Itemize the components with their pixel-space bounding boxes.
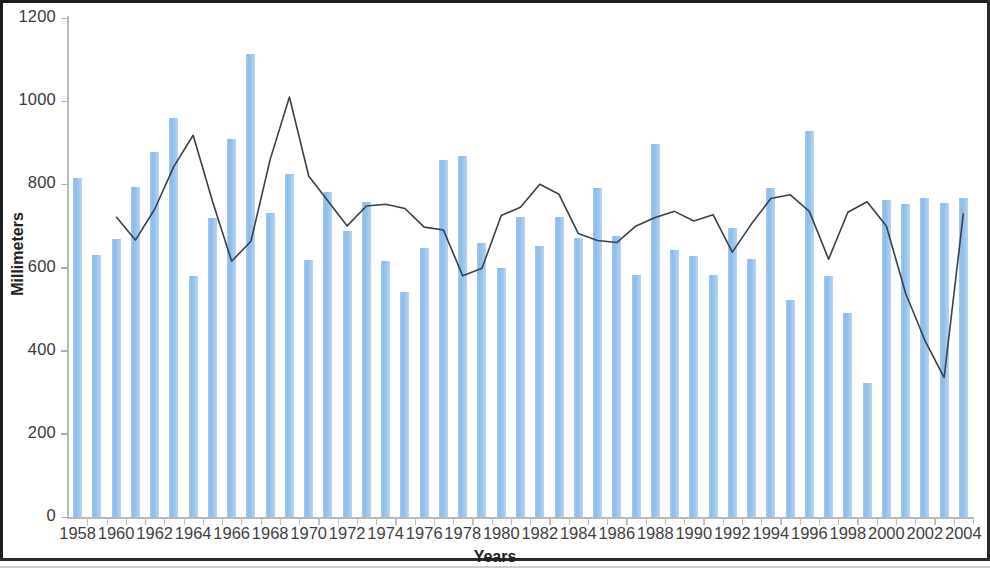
x-axis-tick-label: 1968 xyxy=(248,524,292,543)
moving-average-line-layer xyxy=(68,18,973,517)
y-axis-tick xyxy=(61,267,68,269)
x-axis-tick-label: 1966 xyxy=(210,524,254,543)
x-axis-tick-label: 1970 xyxy=(287,524,331,543)
y-axis-tick xyxy=(61,101,68,103)
x-axis-tick-label: 1962 xyxy=(133,524,177,543)
y-axis-tick-label: 600 xyxy=(0,257,56,276)
x-axis-tick-label: 1974 xyxy=(364,524,408,543)
x-axis-tick-label: 1986 xyxy=(595,524,639,543)
x-axis-tick-label: 1988 xyxy=(633,524,677,543)
x-axis-tick-label: 1976 xyxy=(402,524,446,543)
x-axis-tick-label: 2004 xyxy=(941,524,985,543)
y-axis-tick xyxy=(61,18,68,20)
x-axis-title: Years xyxy=(0,548,990,566)
rainfall-chart-image: 1958196019621964196619681970197219741976… xyxy=(0,0,990,573)
x-axis-tick-label: 1972 xyxy=(325,524,369,543)
y-axis-tick-label: 800 xyxy=(0,173,56,192)
x-axis-tick-label: 1958 xyxy=(56,524,100,543)
y-axis-tick-label: 200 xyxy=(0,423,56,442)
y-axis-tick xyxy=(61,184,68,186)
x-axis-tick-label: 1992 xyxy=(710,524,754,543)
x-axis-tick-label: 1998 xyxy=(826,524,870,543)
x-axis-tick-label: 1980 xyxy=(479,524,523,543)
x-axis-tick-label: 1978 xyxy=(441,524,485,543)
y-axis-tick xyxy=(61,517,68,519)
y-axis-tick xyxy=(61,433,68,435)
x-axis-tick-label: 2002 xyxy=(903,524,947,543)
x-axis-tick-label: 1984 xyxy=(556,524,600,543)
y-axis-tick-label: 0 xyxy=(0,506,56,525)
x-axis-tick-label: 1982 xyxy=(518,524,562,543)
page-edge-line xyxy=(0,566,990,568)
moving-average-line xyxy=(116,97,963,378)
x-axis-tick-label: 2000 xyxy=(864,524,908,543)
y-axis-tick-label: 1200 xyxy=(0,7,56,26)
x-axis-tick-label: 1996 xyxy=(787,524,831,543)
scan-border-left xyxy=(0,0,3,561)
x-axis-tick-label: 1964 xyxy=(171,524,215,543)
y-axis-tick-label: 1000 xyxy=(0,90,56,109)
y-axis-title: Millimeters xyxy=(9,174,27,334)
y-axis-tick-label: 400 xyxy=(0,340,56,359)
x-axis-tick-label: 1994 xyxy=(749,524,793,543)
y-axis-tick xyxy=(61,350,68,352)
x-axis-labels: 1958196019621964196619681970197219741976… xyxy=(0,524,990,550)
x-axis-tick-label: 1960 xyxy=(94,524,138,543)
scan-border-top xyxy=(0,0,990,3)
x-axis-tick-label: 1990 xyxy=(672,524,716,543)
